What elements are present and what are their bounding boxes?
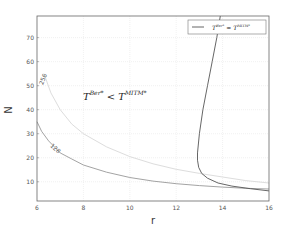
- y-tick-label: 50: [26, 82, 34, 89]
- x-tick-label: 6: [35, 204, 39, 211]
- series-line-tbertmitm: [198, 16, 270, 191]
- x-tick-label: 10: [126, 204, 134, 211]
- legend: TBer* = TMITM*: [188, 20, 266, 34]
- region-annotation: TBer* < TMITM*: [83, 89, 147, 102]
- plot-frame: [37, 16, 269, 201]
- y-axis-label: N: [3, 106, 14, 113]
- y-tick-label: 70: [26, 34, 34, 41]
- y-tick-label: 30: [26, 130, 34, 137]
- grid-lines: [37, 16, 269, 201]
- y-tick-label: 60: [26, 58, 34, 65]
- data-series: [37, 16, 269, 191]
- x-axis-label: r: [151, 215, 156, 226]
- y-tick-label: 10: [26, 178, 34, 185]
- y-tick-label: 20: [26, 154, 34, 161]
- x-tick-label: 16: [265, 204, 273, 211]
- series-line-256: [44, 74, 269, 183]
- x-axis-ticks: 6810121416: [35, 204, 273, 211]
- x-tick-label: 14: [219, 204, 227, 211]
- x-tick-label: 8: [81, 204, 85, 211]
- x-tick-label: 12: [172, 204, 180, 211]
- chart: 6810121416 10203040506070 r N TBer* = TM…: [0, 0, 285, 232]
- contour-label-256: 256: [37, 72, 48, 85]
- y-tick-label: 40: [26, 106, 34, 113]
